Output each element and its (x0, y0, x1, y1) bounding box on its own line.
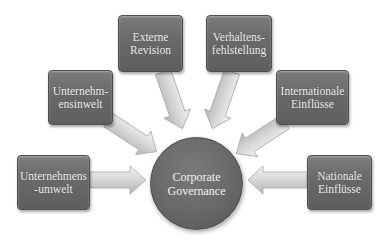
arrow-externe-revision-to-center (150, 67, 196, 133)
node-label: Unternehmens -umwelt (20, 170, 87, 196)
node-externe-revision: Externe Revision (118, 15, 183, 72)
node-label: Unternehm- ensinwelt (53, 85, 109, 111)
corporate-governance-diagram: Unternehmens -umwelt Unternehm- ensinwel… (0, 0, 391, 245)
arrow-unternehmensumwelt-to-center (90, 166, 146, 194)
arrow-nationale-to-center (248, 166, 307, 194)
center-node-corporate-governance: Corporate Governance (150, 137, 243, 230)
center-label: Corporate Governance (168, 170, 226, 198)
node-unternehmensumwelt: Unternehmens -umwelt (17, 155, 90, 210)
node-label: Nationale Einflüsse (317, 170, 362, 196)
node-label: Externe Revision (130, 31, 171, 57)
node-label: Verhaltens- fehlstellung (212, 31, 266, 57)
arrow-verhaltensfehlstellung-to-center (199, 67, 245, 133)
node-label: Internationale Einflüsse (281, 85, 345, 111)
node-internationale-einfluesse: Internationale Einflüsse (276, 70, 349, 125)
node-nationale-einfluesse: Nationale Einflüsse (307, 155, 372, 210)
node-verhaltensfehlstellung: Verhaltens- fehlstellung (206, 15, 272, 72)
node-unternehmensinwelt: Unternehm- ensinwelt (48, 70, 113, 125)
